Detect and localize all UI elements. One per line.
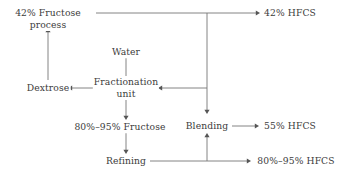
flow-node-fructose_80_95: 80%–95% Fructose [73, 121, 166, 133]
flow-node-fructose_process_42-line1: 42% Fructose [15, 7, 81, 19]
edge-fructose42-to-hfcs42-arrowhead-icon [256, 10, 260, 15]
flow-node-blending-line1: Blending [186, 120, 228, 132]
flow-node-hfcs_42: 42% HFCS [263, 7, 317, 19]
flow-node-hfcs_80_95-line1: 80%–95% HFCS [257, 155, 334, 167]
edge-fructose42-trunk-down [204, 13, 209, 114]
edge-fractionation-to-fructose8095 [123, 100, 128, 120]
flow-node-hfcs_80_95: 80%–95% HFCS [256, 155, 335, 167]
flow-node-fructose_process_42: 42% Fructoseprocess [14, 7, 82, 31]
flow-node-refining-line1: Refining [106, 155, 146, 167]
flow-node-hfcs_55: 55% HFCS [263, 120, 317, 132]
edge-refining-to-blending-arrowhead-icon [204, 133, 209, 137]
edge-blending-to-hfcs55 [232, 123, 259, 128]
flow-node-hfcs_55-line1: 55% HFCS [264, 120, 316, 132]
flow-node-dextrose-line1: Dextrose [27, 82, 70, 94]
flow-node-fructose_process_42-line2: process [15, 19, 81, 31]
flow-node-hfcs_42-line1: 42% HFCS [264, 7, 316, 19]
edge-trunk-to-fractionation [158, 85, 207, 90]
flow-node-refining: Refining [105, 155, 147, 167]
flow-node-blending: Blending [185, 120, 229, 132]
flow-node-water-line1: Water [112, 46, 140, 58]
flow-node-fractionation_unit-line2: unit [94, 88, 158, 100]
flow-node-fructose_80_95-line1: 80%–95% Fructose [74, 121, 165, 133]
edge-refining-to-blending [204, 133, 209, 161]
edge-refining-to-hfcs8095-arrowhead-icon [247, 158, 251, 163]
edge-fructose42-trunk-down-arrowhead-icon [204, 110, 209, 114]
edge-fractionation-to-fructose8095-arrowhead-icon [123, 116, 128, 120]
edge-refining-to-hfcs8095 [150, 158, 251, 163]
flow-node-dextrose: Dextrose [26, 82, 71, 94]
edge-blending-to-hfcs55-arrowhead-icon [255, 123, 259, 128]
edge-fructose8095-to-refining [123, 133, 128, 154]
process-flow-diagram: 42% Fructoseprocess42% HFCSWaterDextrose… [0, 0, 342, 177]
edge-fructose42-to-hfcs42 [96, 10, 260, 15]
flow-node-fractionation_unit-line1: Fractionation [94, 76, 158, 88]
edge-fructose8095-to-refining-arrowhead-icon [123, 150, 128, 154]
flow-node-water: Water [111, 46, 141, 58]
edge-dextrose-to-fructose42 [45, 28, 50, 80]
flow-node-fractionation_unit: Fractionationunit [93, 76, 159, 100]
